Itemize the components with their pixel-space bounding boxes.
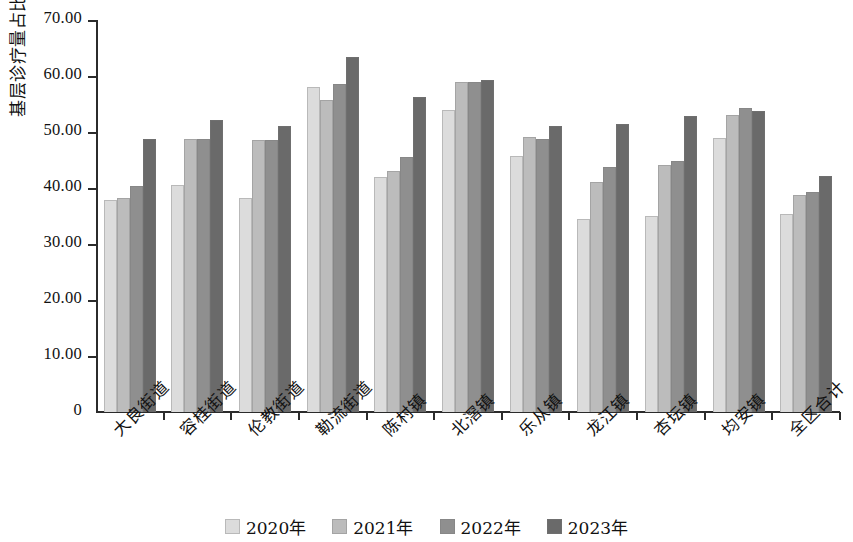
bar	[387, 171, 400, 412]
bar	[130, 186, 143, 412]
y-axis-tick: 0	[0, 412, 96, 413]
bar-group-bars	[231, 20, 299, 412]
bar	[143, 139, 156, 412]
legend-item[interactable]: 2021年	[332, 514, 413, 539]
bar-group	[637, 20, 705, 412]
bar	[577, 219, 590, 412]
y-axis-tick-label: 60.00	[43, 64, 82, 84]
legend-label: 2021年	[353, 514, 413, 539]
y-axis-tick-label: 70.00	[43, 8, 82, 28]
bar	[333, 84, 346, 412]
x-axis-tick-mark	[433, 412, 435, 420]
legend-label: 2020年	[246, 514, 306, 539]
legend-swatch-icon	[225, 519, 240, 534]
bar	[806, 192, 819, 412]
bar	[726, 115, 739, 412]
bar-group	[705, 20, 773, 412]
bar	[603, 167, 616, 412]
y-axis-title: 基层诊疗量占比/%	[4, 0, 30, 144]
bar-group-bars	[772, 20, 840, 412]
y-axis-tick-label: 0	[73, 400, 82, 420]
bar	[645, 216, 658, 412]
bar	[278, 126, 291, 412]
x-axis-tick-mark	[636, 412, 638, 420]
legend-label: 2022年	[461, 514, 521, 539]
bar-group	[299, 20, 367, 412]
bar	[523, 137, 536, 412]
bar-group	[434, 20, 502, 412]
legend-item[interactable]: 2023年	[547, 514, 628, 539]
legend-label: 2023年	[568, 514, 628, 539]
bar-group-bars	[637, 20, 705, 412]
y-axis-tick-label: 40.00	[43, 176, 82, 196]
bar-group-bars	[569, 20, 637, 412]
bar-chart-figure: 基层诊疗量占比/% 70.0060.0050.0040.0030.0020.00…	[0, 0, 853, 542]
y-axis-tick-label: 50.00	[43, 120, 82, 140]
bar	[346, 57, 359, 412]
bar-group	[96, 20, 164, 412]
bar	[549, 126, 562, 412]
bar	[400, 157, 413, 412]
bar	[117, 198, 130, 412]
bar	[671, 161, 684, 412]
y-axis-tick-label: 10.00	[43, 344, 82, 364]
x-axis-tick-mark	[501, 412, 503, 420]
x-axis-tick-mark	[163, 412, 165, 420]
bar	[481, 80, 494, 412]
legend-swatch-icon	[547, 519, 562, 534]
bar	[265, 140, 278, 412]
bar	[252, 140, 265, 412]
bar	[442, 110, 455, 412]
bar	[793, 195, 806, 412]
bar	[684, 116, 697, 412]
x-axis-tick-mark	[366, 412, 368, 420]
plot-area	[96, 20, 840, 412]
bar-group	[164, 20, 232, 412]
bar-group-bars	[367, 20, 435, 412]
x-axis-tick-mark	[568, 412, 570, 420]
legend-swatch-icon	[440, 519, 455, 534]
x-axis-tick-mark	[230, 412, 232, 420]
bar	[197, 139, 210, 412]
bar-group	[367, 20, 435, 412]
bar	[320, 100, 333, 412]
bar-group-bars	[705, 20, 773, 412]
legend-item[interactable]: 2022年	[440, 514, 521, 539]
bar	[413, 97, 426, 412]
bar	[713, 138, 726, 412]
bar-group	[502, 20, 570, 412]
bar-group-bars	[96, 20, 164, 412]
y-axis-tick: 60.00	[0, 76, 96, 77]
y-axis-tick: 40.00	[0, 188, 96, 189]
y-axis-tick-label: 30.00	[43, 232, 82, 252]
bar	[752, 111, 765, 412]
bar	[780, 214, 793, 412]
bar	[536, 139, 549, 412]
bar	[739, 108, 752, 412]
x-axis-tick-mark	[298, 412, 300, 420]
bar	[239, 198, 252, 412]
bar	[510, 156, 523, 412]
bar	[455, 82, 468, 412]
y-axis-tick: 20.00	[0, 300, 96, 301]
bar	[171, 185, 184, 412]
bar-group	[231, 20, 299, 412]
y-axis-tick: 30.00	[0, 244, 96, 245]
x-axis-tick-mark	[839, 412, 841, 420]
legend-item[interactable]: 2020年	[225, 514, 306, 539]
bar	[184, 139, 197, 412]
bar-group-bars	[434, 20, 502, 412]
y-axis-tick: 50.00	[0, 132, 96, 133]
chart-legend: 2020年2021年2022年2023年	[0, 512, 853, 540]
bar	[590, 182, 603, 412]
legend-swatch-icon	[332, 519, 347, 534]
bar	[658, 165, 671, 412]
bar	[210, 120, 223, 412]
y-axis-tick: 70.00	[0, 20, 96, 21]
y-axis-tick: 10.00	[0, 356, 96, 357]
bar-group	[772, 20, 840, 412]
y-axis-tick-label: 20.00	[43, 288, 82, 308]
bar	[104, 200, 117, 412]
bar	[616, 124, 629, 412]
bar-group	[569, 20, 637, 412]
